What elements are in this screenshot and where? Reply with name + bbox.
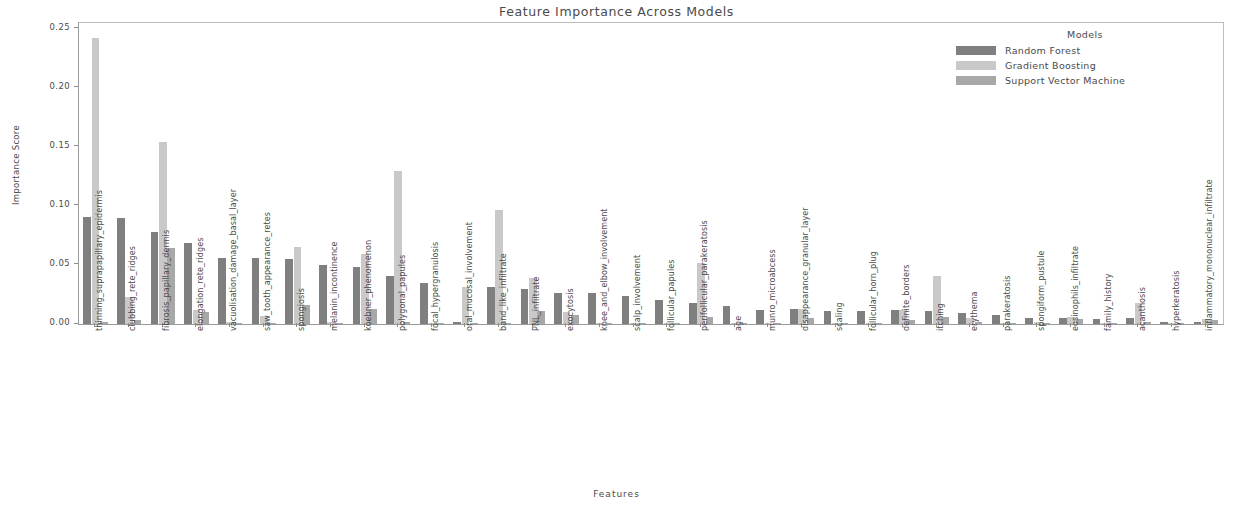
legend-swatch	[956, 46, 996, 55]
x-tick-label: elongation_rete_ridges	[196, 238, 205, 331]
bar-random-forest	[1025, 318, 1033, 324]
legend-swatch	[956, 76, 996, 85]
bar-random-forest	[1126, 318, 1134, 324]
x-tick-label: disappearance_granular_layer	[801, 207, 810, 331]
bar-random-forest	[554, 293, 562, 324]
y-tick-label: 0.00	[49, 317, 70, 327]
x-tick-label: follicular_horn_plug	[869, 251, 878, 331]
bar-random-forest	[218, 258, 226, 324]
bar-random-forest	[1059, 318, 1067, 324]
legend-item: Support Vector Machine	[956, 73, 1214, 88]
bar-random-forest	[487, 287, 495, 324]
x-tick-label: melanin_incontinence	[330, 241, 339, 331]
x-tick-label: scalp_involvement	[633, 255, 642, 331]
legend: Models Random ForestGradient BoostingSup…	[948, 25, 1222, 94]
bar-random-forest	[1160, 322, 1168, 324]
bar-random-forest	[151, 232, 159, 324]
bar-random-forest	[992, 315, 1000, 324]
x-tick-label: band_like_infiltrate	[499, 253, 508, 331]
legend-item: Gradient Boosting	[956, 58, 1214, 73]
x-tick-label: exocytosis	[566, 288, 575, 331]
bar-random-forest	[83, 217, 91, 324]
y-tick-mark	[74, 145, 78, 146]
bar-random-forest	[891, 310, 899, 324]
legend-label: Random Forest	[1005, 45, 1080, 56]
bar-random-forest	[117, 218, 125, 324]
bar-random-forest	[252, 258, 260, 324]
y-tick-mark	[74, 86, 78, 87]
bar-group	[925, 23, 950, 324]
y-axis-label: Importance Score	[11, 100, 21, 230]
bar-random-forest	[824, 311, 832, 324]
x-tick-label: hyperkeratosis	[1172, 270, 1181, 331]
x-tick-label: family_history	[1104, 273, 1113, 331]
x-tick-label: inflammatory_mononuclear_infiltrate	[1205, 179, 1214, 331]
bar-group	[285, 23, 310, 324]
x-tick-label: koebner_phenomenon	[364, 240, 373, 331]
bar-group	[723, 23, 748, 324]
bar-random-forest	[857, 311, 865, 324]
bar-random-forest	[655, 300, 663, 324]
y-tick-label: 0.10	[49, 199, 70, 209]
bar-random-forest	[790, 309, 798, 324]
bar-random-forest	[689, 303, 697, 324]
x-tick-label: follicular_papules	[667, 259, 676, 331]
x-tick-label: munro_microabcess	[768, 249, 777, 331]
y-tick-mark	[74, 323, 78, 324]
bar-random-forest	[723, 306, 731, 324]
x-tick-label: saw_tooth_appearance_retes	[263, 212, 272, 331]
x-tick-label: eosinophils_infiltrate	[1071, 246, 1080, 331]
chart-figure: Feature Importance Across Models Importa…	[0, 0, 1233, 511]
legend-title: Models	[956, 29, 1214, 40]
x-tick-label: acanthosis	[1138, 287, 1147, 331]
bar-random-forest	[925, 311, 933, 324]
bar-random-forest	[386, 276, 394, 324]
legend-swatch	[956, 61, 996, 70]
y-tick-label: 0.25	[49, 22, 70, 32]
legend-label: Gradient Boosting	[1005, 60, 1096, 71]
bar-random-forest	[353, 267, 361, 324]
x-tick-label: parakeratosis	[1003, 275, 1012, 331]
x-tick-label: thinning_suprapapillary_epidermis	[95, 190, 104, 331]
legend-label: Support Vector Machine	[1005, 75, 1125, 86]
x-tick-label: fibrosis_papillary_dermis	[162, 230, 171, 331]
y-tick-label: 0.05	[49, 258, 70, 268]
x-tick-label: scaling	[835, 302, 844, 331]
y-tick-mark	[74, 263, 78, 264]
bar-random-forest	[420, 283, 428, 324]
bar-random-forest	[622, 296, 630, 324]
x-tick-label: oral_mucosal_involvement	[465, 222, 474, 331]
x-tick-label: vacuolisation_damage_basal_layer	[229, 189, 238, 331]
x-tick-label: spongiform_pustule	[1037, 250, 1046, 331]
bar-random-forest	[285, 259, 293, 324]
legend-rows: Random ForestGradient BoostingSupport Ve…	[956, 43, 1214, 88]
y-tick-label: 0.15	[49, 140, 70, 150]
x-tick-label: age	[734, 316, 743, 331]
bar-group	[554, 23, 579, 324]
y-tick-label: 0.20	[49, 81, 70, 91]
bar-random-forest	[1093, 319, 1101, 324]
bar-random-forest	[521, 289, 529, 324]
bar-group	[824, 23, 849, 324]
x-tick-label: spongiosis	[297, 288, 306, 331]
bar-random-forest	[1194, 322, 1202, 324]
bar-random-forest	[958, 313, 966, 324]
bar-random-forest	[756, 310, 764, 324]
x-tick-label: focal_hypergranulosis	[431, 242, 440, 331]
bar-random-forest	[184, 243, 192, 324]
x-tick-label: clubbing_rete_ridges	[128, 246, 137, 331]
x-tick-label: polygonal_papules	[398, 255, 407, 331]
x-tick-label: PNL_infiltrate	[532, 276, 541, 331]
legend-item: Random Forest	[956, 43, 1214, 58]
x-axis-label: Features	[0, 489, 1233, 499]
bar-random-forest	[319, 265, 327, 324]
x-tick-label: knee_and_elbow_involvement	[600, 208, 609, 331]
chart-title: Feature Importance Across Models	[0, 4, 1233, 19]
x-tick-label: perifollicular_parakeratosis	[700, 220, 709, 331]
bar-random-forest	[588, 293, 596, 324]
x-tick-label: definite_borders	[902, 264, 911, 331]
y-tick-mark	[74, 204, 78, 205]
x-tick-label: itching	[936, 303, 945, 331]
y-tick-mark	[74, 27, 78, 28]
bar-random-forest	[453, 322, 461, 324]
